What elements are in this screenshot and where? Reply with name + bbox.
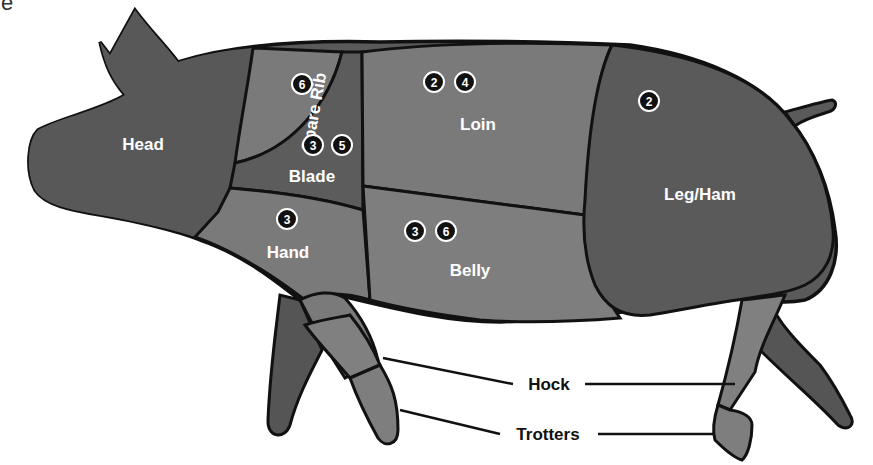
label-leg-ham: Leg/Ham [664, 185, 736, 204]
svg-text:4: 4 [462, 76, 469, 90]
badge-belly-6: 6 [436, 221, 456, 241]
badge-leg-ham-2: 2 [639, 91, 659, 111]
cut-leg-ham [584, 45, 833, 315]
rear-trotter [714, 405, 752, 460]
hock-leader-left [383, 358, 513, 384]
badge-loin-4: 4 [455, 72, 475, 92]
svg-text:6: 6 [299, 78, 306, 92]
cut-head [29, 10, 253, 237]
svg-text:3: 3 [284, 213, 291, 227]
label-head: Head [122, 135, 164, 154]
badge-blade-3: 3 [303, 135, 323, 155]
svg-text:3: 3 [310, 139, 317, 153]
pig-cuts-diagram: Head Spare Rib Blade Loin Leg/Ham Hand B… [0, 0, 873, 465]
label-belly: Belly [450, 261, 491, 280]
front-trotter [350, 365, 398, 444]
badge-blade-5: 5 [332, 135, 352, 155]
badge-belly-3: 3 [405, 221, 425, 241]
callout-trotters: Trotters [516, 425, 579, 444]
svg-text:6: 6 [443, 225, 450, 239]
label-loin: Loin [460, 115, 496, 134]
callout-hock: Hock [528, 375, 570, 394]
label-hand: Hand [267, 243, 310, 262]
badge-spare-rib-6: 6 [292, 74, 312, 94]
badge-loin-2: 2 [424, 72, 444, 92]
trotters-leader-left [400, 410, 500, 434]
svg-text:2: 2 [431, 76, 438, 90]
label-blade: Blade [289, 167, 335, 186]
svg-text:3: 3 [412, 225, 419, 239]
svg-text:2: 2 [646, 95, 653, 109]
badge-hand-3: 3 [277, 209, 297, 229]
svg-text:5: 5 [339, 139, 346, 153]
